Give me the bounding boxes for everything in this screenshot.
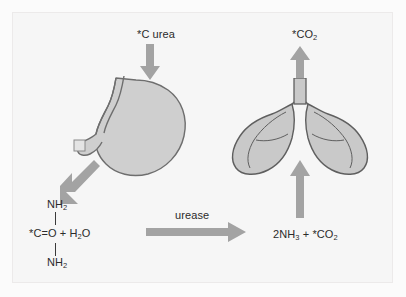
- label-reaction-products: 2NH3 + *CO2: [273, 228, 338, 241]
- diagram-canvas: *C urea *CO2: [0, 0, 406, 297]
- label-urea-core: *C=O + H2O: [29, 227, 90, 240]
- label-nh2-bottom: NH2: [47, 256, 67, 269]
- arrow-up-to-exhaled-co2-icon: [288, 44, 312, 82]
- label-c-urea: *C urea: [137, 28, 175, 41]
- bond-line-bottom: [55, 243, 56, 256]
- label-urease: urease: [175, 209, 209, 222]
- bond-line-top: [55, 212, 56, 225]
- label-exhaled-co2: *CO2: [292, 28, 317, 41]
- arrow-right-urease-icon: [146, 222, 246, 242]
- arrow-up-to-lungs-icon: [288, 158, 312, 218]
- label-nh2-top: NH2: [47, 198, 67, 211]
